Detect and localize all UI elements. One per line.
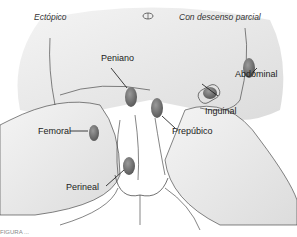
anatomy-illustration [0,0,297,237]
label-perineal: Perineal [66,182,99,192]
label-prepubico: Prepúbico [172,126,213,136]
header-ectopico: Ectópico [34,12,67,22]
header-descenso-parcial: Con descenso parcial [179,12,261,22]
figure-caption: FIGURA ... [0,229,29,235]
testis-peniano [125,87,137,107]
testis-inguinal [203,87,217,99]
label-abdominal: Abdominal [235,69,278,79]
label-femoral: Femoral [38,126,71,136]
testis-perineal [123,157,135,175]
testis-prepubico [151,98,163,118]
label-peniano: Peniano [101,53,134,63]
label-inguinal: Inguinal [205,106,237,116]
testis-location-diagram: Ectópico Con descenso parcial Peniano Ab… [0,0,297,237]
testis-femoral [89,125,99,141]
